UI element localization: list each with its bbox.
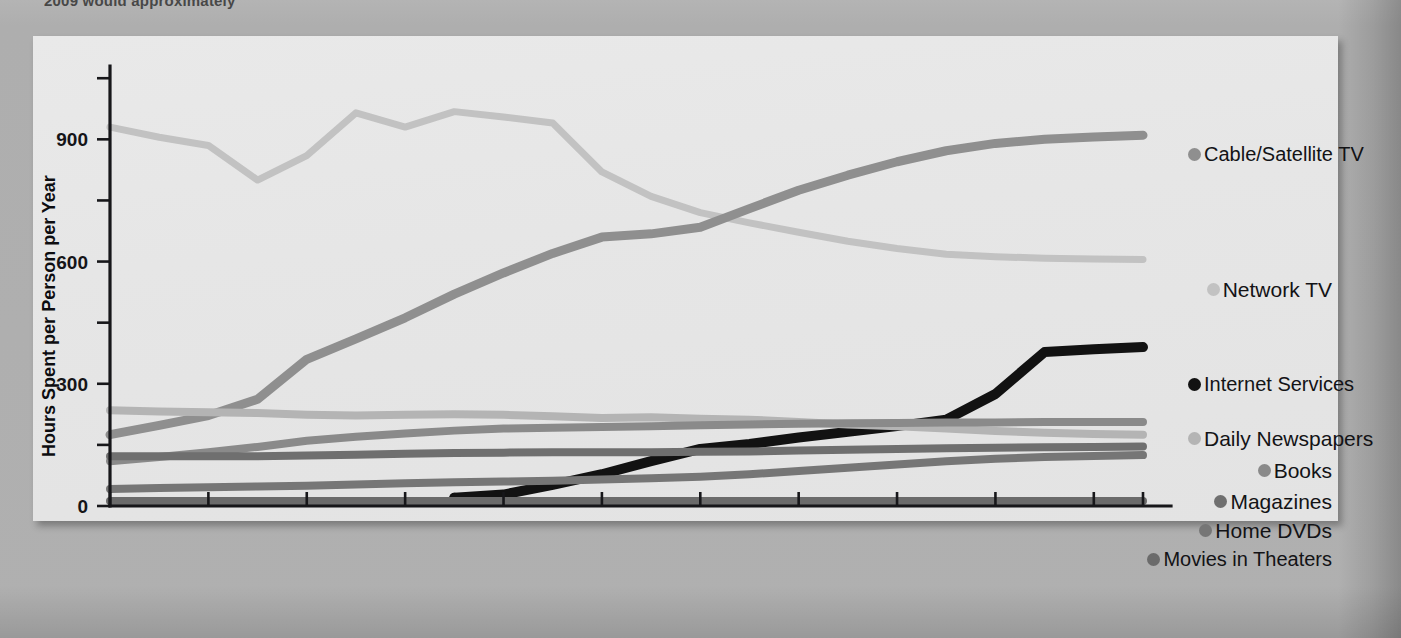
- legend-item-cable-satellite-tv[interactable]: Cable/Satellite TV: [1188, 144, 1364, 164]
- legend-color-dot-icon: [1258, 464, 1271, 477]
- legend-color-dot-icon: [1207, 283, 1220, 296]
- y-tick-label: 0: [77, 496, 88, 517]
- legend-item-movies-in-theaters[interactable]: Movies in Theaters: [1147, 549, 1332, 569]
- x-tick-label: 1988: [90, 520, 130, 521]
- x-tick-label: 2000: [680, 520, 720, 521]
- line-chart: 0300600900198819901992199419961998200020…: [33, 36, 1338, 521]
- legend-item-magazines[interactable]: Magazines: [1214, 491, 1332, 512]
- x-tick-label: 1996: [484, 520, 524, 521]
- legend-color-dot-icon: [1188, 148, 1201, 161]
- x-tick-label: 1992: [287, 520, 327, 521]
- legend-label: Books: [1274, 460, 1332, 481]
- legend-color-dot-icon: [1188, 378, 1201, 391]
- legend-label: Internet Services: [1204, 374, 1354, 394]
- legend-label: Movies in Theaters: [1163, 549, 1332, 569]
- legend-color-dot-icon: [1199, 524, 1212, 537]
- legend-label: Network TV: [1223, 279, 1332, 300]
- legend-item-books[interactable]: Books: [1258, 460, 1332, 481]
- legend-color-dot-icon: [1214, 495, 1227, 508]
- x-tick-label: 1998: [582, 520, 622, 521]
- chart-figure-panel: 0300600900198819901992199419961998200020…: [33, 36, 1338, 521]
- legend-item-daily-newspapers[interactable]: Daily Newspapers: [1188, 428, 1373, 449]
- x-tick-label: 2006: [975, 520, 1015, 521]
- y-tick-label: 900: [56, 129, 88, 150]
- legend-color-dot-icon: [1188, 432, 1201, 445]
- legend-label: Cable/Satellite TV: [1204, 144, 1364, 164]
- x-tick-label: 2008: [1074, 520, 1114, 521]
- cropped-body-text: 2009 would approximately: [44, 0, 744, 14]
- y-tick-label: 300: [56, 374, 88, 395]
- legend-color-dot-icon: [1147, 553, 1160, 566]
- legend-label: Daily Newspapers: [1204, 428, 1373, 449]
- legend-label: Home DVDs: [1215, 520, 1332, 541]
- x-tick-label: 1994: [385, 520, 425, 521]
- x-tick-label: 2004: [877, 520, 917, 521]
- x-tick-label: 2002: [779, 520, 819, 521]
- legend-label: Magazines: [1230, 491, 1332, 512]
- y-axis-title: Hours Spent per Person per Year: [39, 175, 59, 457]
- legend-item-home-dvds[interactable]: Home DVDs: [1199, 520, 1332, 541]
- x-tick-label: 1990: [188, 520, 228, 521]
- legend-item-internet-services[interactable]: Internet Services: [1188, 374, 1354, 394]
- x-tick-label: 2009: [1123, 520, 1163, 521]
- legend-item-network-tv[interactable]: Network TV: [1207, 279, 1332, 300]
- y-tick-label: 600: [56, 252, 88, 273]
- plot-area: 0300600900198819901992199419961998200020…: [33, 36, 1338, 521]
